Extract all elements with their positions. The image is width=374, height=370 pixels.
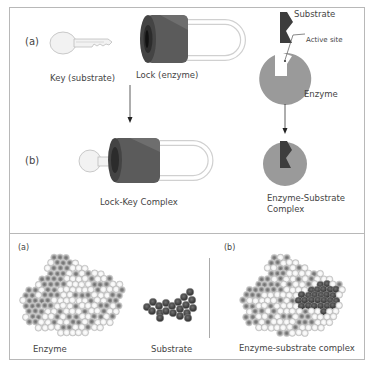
key-icon [50,32,112,54]
enzyme-substrate-complex-icon [263,141,307,186]
lock-label: Lock (enzyme) [136,70,198,81]
active-site-label: Active site [306,36,343,44]
enzyme-molecule-icon [20,254,126,336]
substrate-shape-icon [280,12,293,43]
bottom-a-tag: (a) [18,243,29,252]
bottom-b-tag: (b) [224,243,235,252]
es-complex-label-line2: Complex [267,204,304,215]
substrate-label: Substrate [294,9,335,20]
substrate-molecule-icon [143,288,197,322]
row-b-tag: (b) [25,155,39,166]
lock-key-complex-icon [79,138,211,183]
complex-molecule-label: Enzyme-substrate complex [239,343,355,354]
es-complex-label-line1: Enzyme-Substrate [267,193,345,204]
enzyme-label: Enzyme [304,89,338,100]
substrate-molecule-label: Substrate [151,344,192,355]
enzyme-substrate-molecule-icon [240,254,346,337]
arrow-down-icon [128,85,133,123]
lock-icon [140,15,243,63]
lock-key-complex-label: Lock-Key Complex [100,197,178,208]
key-label: Key (substrate) [50,73,115,84]
enzyme-molecule-label: Enzyme [33,344,67,355]
diagram-graphics [0,0,374,370]
row-a-tag: (a) [25,36,39,47]
arrow-down-icon [283,104,288,134]
